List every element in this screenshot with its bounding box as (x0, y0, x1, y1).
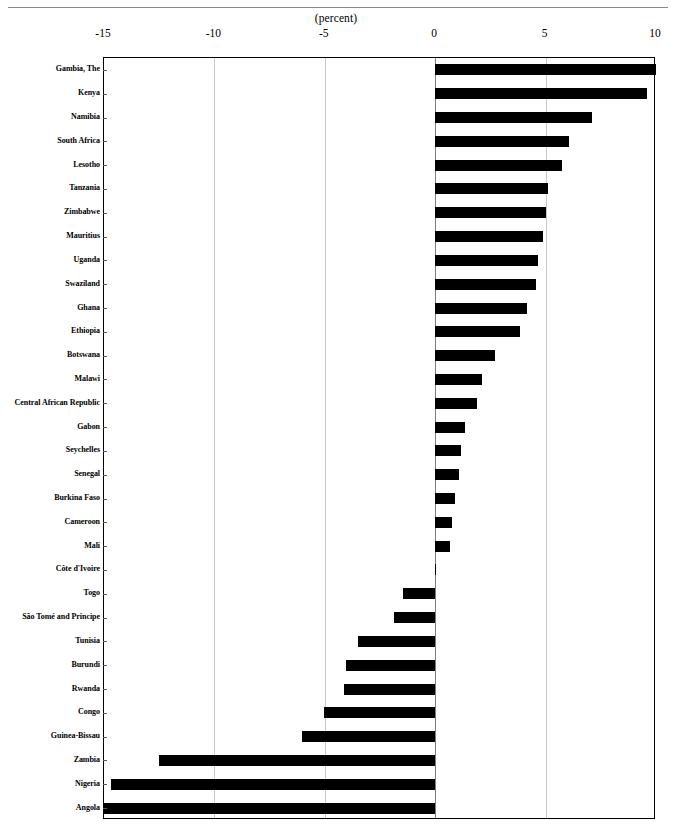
y-tick-mark (103, 356, 107, 357)
category-label: Seychelles (0, 445, 100, 454)
y-tick-mark (103, 94, 107, 95)
y-tick-mark (103, 665, 107, 666)
y-tick-mark (103, 332, 107, 333)
gridline-neg5 (325, 58, 326, 818)
y-tick-mark (103, 427, 107, 428)
x-tick-label-0: 0 (404, 27, 464, 39)
category-label: Zambia (0, 755, 100, 764)
category-label: Gambia, The (0, 64, 100, 73)
y-tick-mark (103, 451, 107, 452)
category-label: Côte d'Ivoire (0, 564, 100, 573)
bar (435, 350, 495, 361)
bar (435, 88, 647, 99)
bar (435, 303, 527, 314)
x-tick-label-5: 5 (515, 27, 575, 39)
bar (435, 112, 592, 123)
bar (435, 422, 465, 433)
category-label: South Africa (0, 136, 100, 145)
y-tick-mark (103, 189, 107, 190)
y-tick-mark (103, 713, 107, 714)
category-label: Guinea-Bissau (0, 731, 100, 740)
bar (346, 660, 435, 671)
y-tick-mark (103, 379, 107, 380)
y-tick-mark (103, 475, 107, 476)
y-tick-mark (103, 284, 107, 285)
y-tick-mark (103, 499, 107, 500)
y-tick-mark (103, 570, 107, 571)
bar (435, 541, 450, 552)
category-label: Cameroon (0, 517, 100, 526)
category-label: Togo (0, 588, 100, 597)
bar (435, 136, 569, 147)
cutoff-caption (10, 0, 660, 3)
category-label: Burkina Faso (0, 493, 100, 502)
category-label: Burundi (0, 660, 100, 669)
x-tick-label-neg10: -10 (183, 27, 243, 39)
bar (435, 469, 459, 480)
bar (435, 279, 535, 290)
bar (394, 612, 435, 623)
bar (403, 588, 435, 599)
bar (358, 636, 435, 647)
category-label: Angola (0, 803, 100, 812)
bar (159, 755, 435, 766)
category-label: Swaziland (0, 279, 100, 288)
category-label: Botswana (0, 350, 100, 359)
category-label: Uganda (0, 255, 100, 264)
category-label: Mauritius (0, 231, 100, 240)
x-tick-label-neg5: -5 (294, 27, 354, 39)
category-label: Namibia (0, 112, 100, 121)
units-label: (percent) (296, 12, 376, 24)
category-label: Lesotho (0, 160, 100, 169)
bar (104, 803, 435, 814)
category-label: Senegal (0, 469, 100, 478)
y-tick-mark (103, 165, 107, 166)
y-tick-mark (103, 308, 107, 309)
category-label: Nigeria (0, 779, 100, 788)
y-tick-mark (103, 403, 107, 404)
bar (435, 493, 455, 504)
y-tick-mark (103, 808, 107, 809)
category-label: Tanzania (0, 183, 100, 192)
figure-container: (percent) -15-10-50510 Gambia, TheKenyaN… (0, 0, 673, 832)
category-label: Ethiopia (0, 326, 100, 335)
bar (435, 398, 477, 409)
zero-reference-line (435, 58, 436, 818)
category-label: Central African Republic (0, 398, 100, 407)
bar (435, 64, 656, 75)
x-tick-label-10: 10 (625, 27, 673, 39)
y-tick-mark (103, 213, 107, 214)
bar (435, 445, 460, 456)
y-tick-mark (103, 118, 107, 119)
category-label: Rwanda (0, 684, 100, 693)
bar (111, 779, 436, 790)
bar (435, 326, 520, 337)
y-tick-mark (103, 522, 107, 523)
y-tick-mark (103, 689, 107, 690)
bar (435, 231, 543, 242)
bar (344, 684, 436, 695)
top-rule (8, 7, 668, 8)
category-label: Tunisia (0, 636, 100, 645)
category-label: Zimbabwe (0, 207, 100, 216)
y-tick-mark (103, 737, 107, 738)
bar (435, 160, 562, 171)
bar (435, 255, 538, 266)
y-tick-mark (103, 784, 107, 785)
y-tick-mark (103, 760, 107, 761)
category-label: Ghana (0, 303, 100, 312)
y-tick-mark (103, 237, 107, 238)
category-label-column: Gambia, TheKenyaNamibiaSouth AfricaLesot… (0, 57, 100, 819)
bar (435, 183, 548, 194)
bar (435, 207, 545, 218)
gridline-5 (546, 58, 547, 818)
category-label: Malawi (0, 374, 100, 383)
y-tick-mark (103, 260, 107, 261)
bar (302, 731, 436, 742)
x-axis-tick-labels: -15-10-50510 (0, 27, 673, 43)
category-label: Gabon (0, 422, 100, 431)
y-tick-mark (103, 546, 107, 547)
y-tick-mark (103, 70, 107, 71)
category-label: Congo (0, 707, 100, 716)
category-label: São Tomé and Principe (0, 612, 100, 621)
